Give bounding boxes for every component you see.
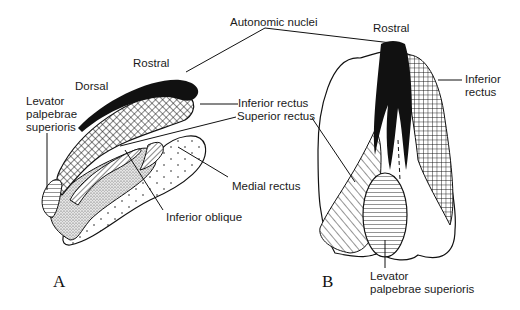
label-superior-rectus-a: Superior rectus [237,110,315,123]
label-inferior-rectus-b: Inferior rectus [465,73,501,99]
label-inferior-oblique-a: Inferior oblique [166,211,242,224]
label-levator-a: Levator palpebrae superioris [26,95,77,134]
label-dorsal-a: Dorsal [75,80,108,93]
label-autonomic-nuclei: Autonomic nuclei [230,16,318,29]
label-rostral-b: Rostral [373,22,409,35]
panel-letter-a: A [53,272,65,292]
panel-b-drawing [318,41,455,260]
panel-letter-b: B [322,272,333,292]
label-medial-rectus-a: Medial rectus [232,180,300,193]
label-inferior-rectus-a: Inferior rectus [238,97,308,110]
oculomotor-nucleus-diagram [0,0,520,310]
label-levator-b: Levator palpebrae superioris [370,270,474,296]
label-rostral-a: Rostral [133,57,169,70]
